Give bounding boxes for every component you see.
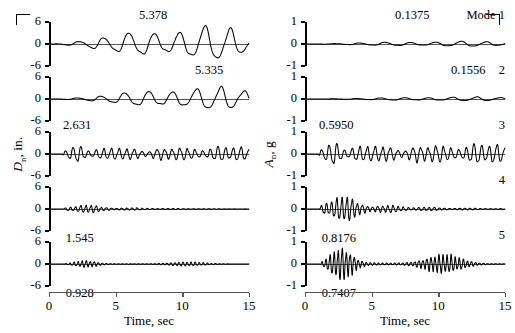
- x-tick: [372, 293, 373, 297]
- x-tick: [182, 293, 183, 297]
- peak-value-label-mode-3: 0.5950: [319, 119, 353, 132]
- x-tick-label: 0: [46, 299, 53, 312]
- mode-label-3: 3: [499, 119, 505, 132]
- mode-label-5: 5: [499, 229, 505, 242]
- plot-panel-mode-4: 60-61.545: [49, 187, 249, 231]
- mode-label-1: Mode 1: [466, 9, 505, 22]
- y-tick-label: 0: [291, 202, 297, 215]
- x-axis-line: [49, 292, 249, 293]
- y-tick-label: 0: [291, 37, 297, 50]
- y-tick-label: 0: [35, 92, 41, 105]
- y-tick-label: 0: [35, 202, 41, 215]
- y-tick-label: 6: [35, 235, 41, 248]
- waveform-trace-mode-2: [305, 77, 505, 121]
- y-tick-label: 1: [291, 180, 297, 193]
- y-tick-label: 6: [35, 70, 41, 83]
- plot-panel-mode-4: 10-10.81764: [305, 187, 505, 231]
- x-tick-label: 10: [432, 299, 445, 312]
- y-tick-label: 0: [35, 257, 41, 270]
- waveform-trace-mode-1: [49, 22, 249, 66]
- plot-panel-mode-2: 10-10.15562: [305, 77, 505, 121]
- waveform-trace-mode-4: [49, 187, 249, 231]
- peak-value-label-mode-1: 0.1375: [395, 9, 429, 22]
- y-tick-label: 6: [35, 15, 41, 28]
- mode-label-2: 2: [499, 64, 505, 77]
- waveform-trace-mode-3: [305, 132, 505, 176]
- mode-label-4: 4: [499, 174, 505, 187]
- plot-panel-mode-5: 60-60.928: [49, 242, 249, 286]
- waveform-trace-mode-2: [49, 77, 249, 121]
- waveform-trace-mode-3: [49, 132, 249, 176]
- peak-value-label-mode-2: 0.1556: [451, 64, 485, 77]
- x-tick: [305, 293, 306, 297]
- x-axis-line: [305, 292, 505, 293]
- x-tick-label: 15: [243, 299, 256, 312]
- x-tick-label: 0: [302, 299, 309, 312]
- y-tick-label: 1: [291, 235, 297, 248]
- x-axis-title: Time, sec: [380, 314, 430, 327]
- y-tick-label: 6: [35, 180, 41, 193]
- figure-canvas: Dn, in. An, g 60-65.37860-65.33560-62.63…: [0, 0, 515, 333]
- peak-value-label-mode-2: 5.335: [195, 64, 223, 77]
- y-tick-label: 6: [35, 125, 41, 138]
- x-tick: [438, 293, 439, 297]
- x-tick: [49, 293, 50, 297]
- y-tick-label: 0: [35, 37, 41, 50]
- y-tick-label: 1: [291, 125, 297, 138]
- x-tick: [249, 293, 250, 297]
- y-tick-label: 1: [291, 70, 297, 83]
- peak-value-label-mode-3: 2.631: [63, 119, 91, 132]
- y-tick-label: 0: [291, 92, 297, 105]
- y-tick-label: -1: [287, 279, 297, 292]
- x-tick-label: 5: [368, 299, 375, 312]
- y-tick-label: 0: [35, 147, 41, 160]
- y-axis-title-left: Dn, in.: [11, 137, 28, 172]
- y-tick-label: -6: [31, 279, 41, 292]
- peak-value-label-mode-1: 5.378: [139, 9, 167, 22]
- plot-panel-mode-1: 10-10.1375Mode 1: [305, 22, 505, 66]
- plot-panel-mode-3: 60-62.631: [49, 132, 249, 176]
- plot-panel-mode-2: 60-65.335: [49, 77, 249, 121]
- x-axis-title: Time, sec: [124, 314, 174, 327]
- x-tick-label: 15: [499, 299, 512, 312]
- plot-panel-mode-5: 10-10.74075: [305, 242, 505, 286]
- x-tick-label: 5: [112, 299, 119, 312]
- waveform-trace-mode-5: [49, 242, 249, 286]
- x-tick: [505, 293, 506, 297]
- x-tick: [116, 293, 117, 297]
- x-tick-label: 10: [176, 299, 189, 312]
- y-tick-label: 1: [291, 15, 297, 28]
- waveform-trace-mode-5: [305, 242, 505, 286]
- waveform-trace-mode-4: [305, 187, 505, 231]
- waveform-trace-mode-1: [305, 22, 505, 66]
- y-axis-title-right: An, g: [262, 141, 279, 167]
- plot-panel-mode-1: 60-65.378: [49, 22, 249, 66]
- corner-mark-top-left: [16, 14, 30, 25]
- y-tick-label: 0: [291, 257, 297, 270]
- plot-panel-mode-3: 10-10.59503: [305, 132, 505, 176]
- y-tick-label: 0: [291, 147, 297, 160]
